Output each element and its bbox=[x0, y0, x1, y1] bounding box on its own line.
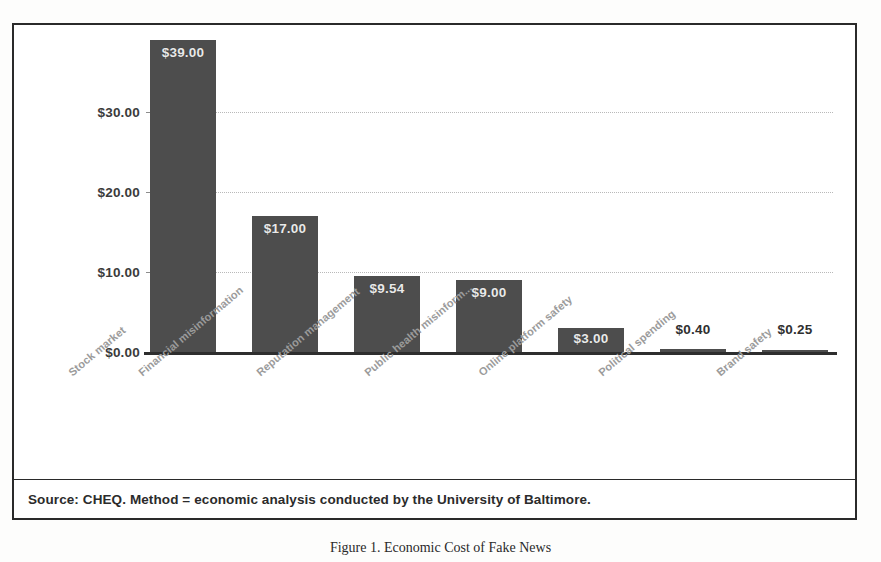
bar-value-financial-misinformation: $17.00 bbox=[252, 221, 318, 236]
ytick-label-10: $10.00 bbox=[30, 265, 140, 280]
bar-chart-plot-area: $30.00 $20.00 $10.00 $0.00 $39.00 $17.00… bbox=[14, 25, 855, 518]
bar-value-reputation-management: $9.54 bbox=[354, 281, 420, 296]
bar-online-platform-safety[interactable]: $3.00 bbox=[558, 328, 624, 352]
gridline-20 bbox=[154, 192, 833, 193]
ytick-label-30: $30.00 bbox=[30, 105, 140, 120]
source-divider bbox=[14, 479, 855, 480]
figure-frame: $30.00 $20.00 $10.00 $0.00 $39.00 $17.00… bbox=[12, 23, 857, 520]
bar-stock-market[interactable]: $39.00 bbox=[150, 40, 216, 352]
source-note: Source: CHEQ. Method = economic analysis… bbox=[28, 492, 591, 507]
figure-caption: Figure 1. Economic Cost of Fake News bbox=[0, 540, 881, 556]
bar-value-online-platform-safety: $3.00 bbox=[558, 331, 624, 346]
bar-value-political-spending: $0.40 bbox=[660, 322, 726, 337]
ytick-label-20: $20.00 bbox=[30, 185, 140, 200]
gridline-30 bbox=[154, 112, 833, 113]
bar-value-stock-market: $39.00 bbox=[150, 45, 216, 60]
